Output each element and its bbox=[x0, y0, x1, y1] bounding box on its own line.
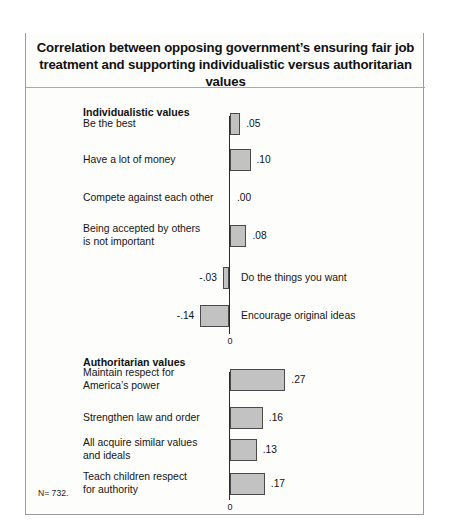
bar-value-label: .08 bbox=[252, 230, 266, 241]
category-label-line: Encourage original ideas bbox=[241, 310, 355, 323]
bar bbox=[230, 149, 251, 171]
category-label: Be the best bbox=[83, 118, 136, 131]
chart-plot-area: Individualistic values0Be the best.05Hav… bbox=[26, 88, 425, 483]
category-label-line: is not important bbox=[83, 236, 200, 249]
bar-value-label: .10 bbox=[257, 154, 271, 165]
category-label: All acquire similar valuesand ideals bbox=[83, 437, 197, 462]
category-label: Compete against each other bbox=[83, 192, 214, 205]
bar bbox=[200, 305, 229, 327]
category-label: Encourage original ideas bbox=[241, 310, 355, 323]
bar bbox=[230, 407, 263, 429]
bar-value-label: .13 bbox=[263, 444, 277, 455]
category-label: Being accepted by othersis not important bbox=[83, 223, 200, 248]
bar-value-label: .00 bbox=[237, 192, 251, 203]
category-label-line: Be the best bbox=[83, 118, 136, 131]
bar bbox=[230, 473, 265, 495]
category-label: Teach children respectfor authority bbox=[83, 471, 187, 496]
bar-value-label: .05 bbox=[246, 118, 260, 129]
category-label-line: Maintain respect for bbox=[83, 367, 174, 380]
axis-zero-label-0: 0 bbox=[220, 336, 240, 346]
category-label-line: for authority bbox=[83, 484, 187, 497]
page-title: Correlation between opposing government’… bbox=[26, 39, 425, 90]
category-label-line: Strengthen law and order bbox=[83, 412, 200, 425]
bar bbox=[230, 439, 257, 461]
group-heading-authoritarian: Authoritarian values bbox=[83, 356, 185, 368]
category-label-line: Teach children respect bbox=[83, 471, 187, 484]
category-label-line: Compete against each other bbox=[83, 192, 214, 205]
axis-zero-label-1: 0 bbox=[220, 502, 240, 512]
category-label-line: Do the things you want bbox=[241, 272, 347, 285]
category-label-line: and ideals bbox=[83, 450, 197, 463]
bar bbox=[230, 113, 240, 135]
bar bbox=[230, 369, 285, 391]
bar-value-label: .16 bbox=[269, 412, 283, 423]
group-heading-individualistic: Individualistic values bbox=[83, 106, 190, 118]
bar-value-label: -.14 bbox=[168, 310, 194, 321]
title-line-2: treatment and supporting individualistic… bbox=[26, 56, 425, 90]
bar bbox=[223, 267, 229, 289]
title-line-1: Correlation between opposing government’… bbox=[26, 39, 425, 56]
category-label-line: Have a lot of money bbox=[83, 154, 175, 167]
bar-value-label: .27 bbox=[291, 374, 305, 385]
category-label-line: All acquire similar values bbox=[83, 437, 197, 450]
sample-size-note: N= 732. bbox=[38, 488, 68, 498]
category-label: Strengthen law and order bbox=[83, 412, 200, 425]
figure-panel: Correlation between opposing government’… bbox=[25, 33, 424, 515]
bar bbox=[230, 225, 246, 247]
bar-value-label: .17 bbox=[271, 478, 285, 489]
category-label-line: America’s power bbox=[83, 380, 174, 393]
category-label: Do the things you want bbox=[241, 272, 347, 285]
category-label: Have a lot of money bbox=[83, 154, 175, 167]
category-label: Maintain respect forAmerica’s power bbox=[83, 367, 174, 392]
category-label-line: Being accepted by others bbox=[83, 223, 200, 236]
bar-value-label: -.03 bbox=[191, 272, 217, 283]
